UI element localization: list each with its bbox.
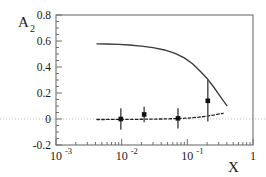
plot-svg: 0.80.60.40.20-0.2 10-310-210-11 A 2 X (0, 0, 266, 177)
y-tick-label: 0 (45, 113, 51, 125)
x-tick-label: 10 (116, 149, 128, 163)
x-tick-label: 10 (181, 149, 193, 163)
x-axis-title: X (228, 159, 239, 175)
y-tick-label: 0.6 (37, 35, 52, 47)
y-tick-label: -0.2 (33, 139, 51, 151)
data-point-marker (176, 116, 181, 121)
data-points-group (118, 80, 210, 130)
x-tick-label: 1 (250, 149, 256, 163)
data-point-marker (118, 117, 123, 122)
data-point-marker (142, 112, 147, 117)
figure-container: 0.80.60.40.20-0.2 10-310-210-11 A 2 X (0, 0, 266, 177)
plot-frame (56, 15, 253, 145)
y-tick-labels: 0.80.60.40.20-0.2 (33, 9, 51, 151)
y-axis-title: A (18, 14, 29, 30)
x-tick-label-exponent: -3 (65, 146, 72, 156)
y-axis-ticks (56, 15, 62, 145)
data-point-marker (206, 99, 211, 104)
x-tick-label-exponent: -2 (131, 146, 138, 156)
y-tick-label: 0.2 (37, 87, 52, 99)
x-axis-ticks (56, 139, 253, 145)
x-tick-labels: 10-310-210-11 (50, 146, 256, 163)
y-axis-title-subscript: 2 (30, 23, 35, 34)
x-tick-label: 10 (50, 149, 62, 163)
y-tick-label: 0.4 (37, 61, 52, 73)
y-tick-label: 0.8 (37, 9, 52, 21)
x-tick-label-exponent: -1 (196, 146, 203, 156)
